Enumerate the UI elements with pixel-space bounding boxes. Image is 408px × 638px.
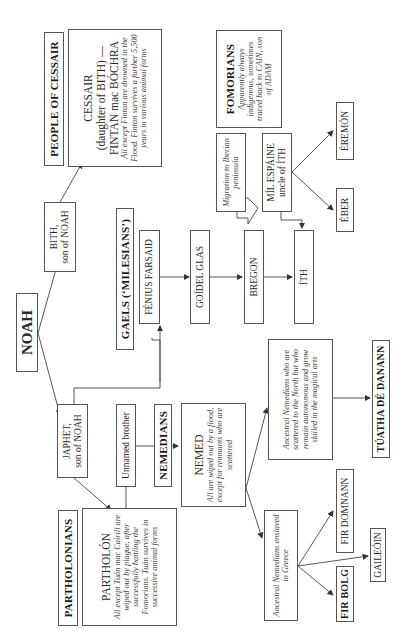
fir-bolg-label: FIR BOLG [339,569,350,619]
gaels-group-title: GAELS (‘MILESIANS’) [116,208,134,350]
greece-nemedians-node: Ancestral Nemedians enslaved in Greece [264,510,298,621]
bregon-node: BREGON [244,230,264,324]
genealogy-diagram: NOAH BITH, son of NOAH PEOPLE OF CESSAIR… [0,0,408,638]
fomorians-note: Apparently always indigenous, sometimes … [237,34,274,124]
noah-label: NOAH [19,310,36,355]
nemed-name: NEMED [193,435,206,476]
mil-espaine-node: MÍL ESPÁINE uncle of ÍTH [262,133,292,212]
partholon-note: All except Tuán mac Cairill are wiped ou… [113,512,159,622]
nemedians-title-text: NEMEDIANS [157,411,169,480]
migration-text: Migration to Iberian peninsula [222,135,241,210]
bith-node: BITH, son of NOAH [44,202,76,272]
fomorians-node: FOMORIANS Apparently always indigenous, … [216,30,282,128]
bregon-label: BREGON [249,257,260,296]
fir-domnann-node: FIR DOMNANN [336,469,354,553]
unnamed-brother-node: Unnamed brother [116,404,136,487]
noah-node: NOAH [16,293,38,372]
migration-note: Migration to Iberian peninsula [216,133,246,212]
ith-node: ÍTH [294,230,314,324]
japhet-node: JAPHET, son of NOAH [57,404,88,478]
nemedians-group-title: NEMEDIANS [154,404,172,487]
cessair-line3: FINTAN mac BÓCHRA [108,41,121,155]
bith-sub: son of NOAH [60,210,71,263]
tuatha-de-danann-node: TÚATHA DÉ DANANN [372,340,390,458]
mil-line1: MÍL ESPÁINE [266,143,277,202]
fenius-label: FÉNIUS FARSAID [144,239,155,315]
cessair-name: CESSAIR [82,74,95,121]
partholon-node: PARTHOLÓN All except Tuán mac Cairill ar… [82,508,177,626]
bith-name: BITH, [49,225,60,250]
japhet-sub: son of NOAH [73,414,84,467]
fenius-farsaid-node: FÉNIUS FARSAID [139,230,160,324]
partholon-name: PARTHOLÓN [100,533,113,601]
goidel-label: GOÍDEL GLAS [195,246,206,308]
north-note: Ancestral Nemedians who are scattered to… [282,343,319,456]
tuatha-label: TÚATHA DÉ DANANN [375,346,386,453]
japhet-name: JAPHET, [62,423,73,459]
cessair-node: CESSAIR (daughter of BITH) — FINTAN mac … [68,29,162,167]
partholonians-title-text: PARTHOLONIANS [62,519,74,618]
north-nemedians-node: Ancestral Nemedians who are scattered to… [268,339,333,460]
eber-label: ÉBER [340,198,351,222]
gaileoin-node: GAILEÓIN [370,528,386,582]
cessair-line2: (daughter of BITH) — [95,46,108,150]
fir-domnann-label: FIR DOMNANN [340,478,351,545]
eremon-node: ÉREMÓN [336,102,354,160]
gaels-title-text: GAELS (‘MILESIANS’) [119,219,131,339]
nemed-node: NEMED All are wiped out by a flood, exce… [181,403,246,507]
cessair-group-title: PEOPLE OF CESSAIR [44,32,64,166]
eremon-label: ÉREMÓN [340,111,351,151]
greece-note: Ancestral Nemedians enslaved in Greece [272,513,291,618]
fomorians-title-text: FOMORIANS [224,44,236,114]
cessair-note: All except Fintan are drowned in the Flo… [120,33,148,163]
mil-line2: uncle of ÍTH [277,148,288,197]
partholonians-group-title: PARTHOLONIANS [58,510,78,626]
cessair-title-text: PEOPLE OF CESSAIR [48,41,60,156]
ith-label: ÍTH [299,269,310,285]
goidel-glas-node: GOÍDEL GLAS [190,230,210,324]
gaileoin-label: GAILEÓIN [373,532,384,577]
unnamed-brother-label: Unnamed brother [121,412,132,479]
eber-node: ÉBER [336,188,354,232]
nemed-note: All are wiped out by a flood, except for… [206,407,234,503]
fir-bolg-node: FIR BOLG [336,566,354,622]
